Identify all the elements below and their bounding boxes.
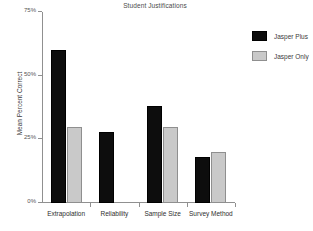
y-axis-tick-label: 50% bbox=[24, 71, 36, 77]
y-axis-tick-label: 75% bbox=[24, 7, 36, 13]
legend-label: Jasper Plus bbox=[274, 33, 308, 40]
x-axis-category-label: Sample Size bbox=[144, 210, 181, 217]
y-axis-tick: 0% bbox=[38, 202, 42, 203]
legend-swatch bbox=[252, 31, 267, 41]
bar bbox=[99, 132, 114, 203]
chart-legend: Jasper PlusJasper Only bbox=[252, 28, 309, 68]
bar bbox=[51, 50, 66, 203]
legend-swatch bbox=[252, 51, 267, 61]
y-axis-tick: 75% bbox=[38, 11, 42, 12]
plot-area: 0%25%50%75% bbox=[42, 12, 235, 203]
legend-item: Jasper Only bbox=[252, 48, 309, 64]
y-axis-line bbox=[42, 12, 43, 203]
chart-figure: Student Justifications Mean Percent Corr… bbox=[0, 0, 313, 231]
y-axis-tick-label: 25% bbox=[24, 134, 36, 140]
chart-title: Student Justifications bbox=[95, 2, 215, 9]
y-axis-title: Mean Percent Correct bbox=[16, 44, 23, 164]
y-axis-tick-label: 0% bbox=[27, 198, 36, 204]
x-axis-tick bbox=[90, 203, 91, 207]
legend-item: Jasper Plus bbox=[252, 28, 309, 44]
x-axis-tick bbox=[139, 203, 140, 207]
bar bbox=[163, 127, 178, 203]
bar bbox=[67, 127, 82, 203]
x-axis-category-label: Survey Method bbox=[189, 210, 233, 217]
legend-label: Jasper Only bbox=[274, 53, 309, 60]
bar bbox=[211, 152, 226, 203]
y-axis-tick: 50% bbox=[38, 75, 42, 76]
x-axis-category-label: Extrapolation bbox=[47, 210, 85, 217]
x-axis-tick bbox=[235, 203, 236, 207]
x-axis-category-label: Reliability bbox=[100, 210, 128, 217]
bar bbox=[147, 106, 162, 203]
x-axis-tick bbox=[187, 203, 188, 207]
y-axis-tick: 25% bbox=[38, 138, 42, 139]
bar bbox=[195, 157, 210, 203]
